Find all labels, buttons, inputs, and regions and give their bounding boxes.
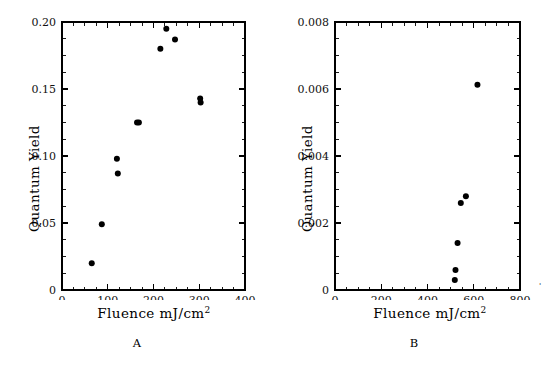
data-point	[458, 200, 464, 206]
x-tick-label: 200	[143, 294, 164, 300]
scatter-figure: 010020030040000.050.100.150.20 Fluence m…	[0, 0, 555, 366]
y-tick-label: 0	[322, 284, 329, 297]
panel-a-y-axis-title: Quantum Yield	[26, 125, 42, 232]
panel-b-x-axis-title-text: Fluence mJ/cm	[373, 305, 480, 321]
data-point	[163, 26, 169, 32]
y-tick-label: 0.008	[298, 16, 330, 29]
panel-a-x-axis-title-exponent: 2	[205, 305, 211, 315]
data-point	[99, 221, 105, 227]
data-point	[452, 267, 458, 273]
panel-b-edge-mark: '	[539, 281, 541, 290]
panel-b: 020040060080000.0020.0040.0060.008 Fluen…	[272, 0, 555, 366]
y-tick-label: 0	[49, 284, 56, 297]
x-tick-label: 200	[371, 294, 392, 300]
x-tick-label: 800	[510, 294, 531, 300]
x-tick-label: 600	[463, 294, 484, 300]
data-point	[198, 99, 204, 105]
panel-a-x-axis-title: Fluence mJ/cm2	[62, 305, 246, 321]
data-point	[463, 193, 469, 199]
panel-a-label: A	[122, 336, 152, 350]
x-tick-label: 100	[97, 294, 118, 300]
data-point	[157, 46, 163, 52]
data-point	[115, 170, 121, 176]
data-point	[136, 120, 142, 126]
a-plot-frame	[62, 22, 245, 290]
b-plot-frame	[335, 22, 520, 290]
x-tick-label: 0	[332, 294, 339, 300]
y-tick-label: 0.20	[32, 16, 57, 29]
panel-b-y-axis-title: Quantum Yield	[299, 125, 315, 232]
data-point	[452, 277, 458, 283]
data-point	[114, 156, 120, 162]
panel-b-x-axis-title-exponent: 2	[481, 305, 487, 315]
y-tick-label: 0.15	[32, 83, 57, 96]
x-tick-label: 0	[59, 294, 66, 300]
data-point	[474, 82, 480, 88]
y-tick-label: 0.006	[298, 83, 330, 96]
panel-a: 010020030040000.050.100.150.20 Fluence m…	[0, 0, 278, 366]
x-tick-label: 400	[417, 294, 438, 300]
data-point	[89, 260, 95, 266]
x-tick-label: 300	[189, 294, 210, 300]
panel-b-x-axis-title: Fluence mJ/cm2	[335, 305, 525, 321]
panel-b-label: B	[399, 336, 429, 350]
data-point	[455, 240, 461, 246]
x-tick-label: 400	[235, 294, 256, 300]
data-point	[172, 36, 178, 42]
panel-a-x-axis-title-text: Fluence mJ/cm	[97, 305, 204, 321]
